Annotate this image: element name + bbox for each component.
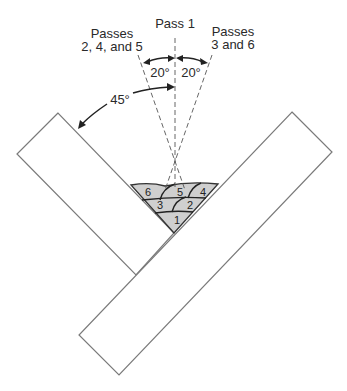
bead-number: 1	[174, 214, 180, 226]
arrowhead	[176, 55, 183, 62]
angle-arc-45-lower	[82, 104, 107, 124]
arrowhead	[143, 58, 150, 65]
angle-right-label: 20°	[181, 65, 201, 80]
angle-arc-left	[147, 58, 171, 62]
angle-plate-label: 45°	[110, 92, 130, 107]
pass1-label: Pass 1	[155, 16, 195, 31]
angle-left-label: 20°	[150, 65, 170, 80]
passes-right-label-line2: 3 and 6	[211, 37, 254, 52]
bead-number: 3	[157, 199, 163, 211]
arrowhead	[200, 58, 208, 65]
arrowhead	[167, 83, 175, 91]
bead-number: 2	[187, 199, 193, 211]
bead-number: 6	[145, 186, 151, 198]
weld-diagram: Pass 1 Passes 2, 4, and 5 Passes 3 and 6…	[0, 0, 347, 391]
bead-number: 5	[177, 186, 183, 198]
bead-number: 4	[200, 186, 206, 198]
passes-left-label-line2: 2, 4, and 5	[81, 39, 142, 54]
arrowhead	[168, 55, 175, 62]
angle-arc-45-upper	[133, 87, 170, 93]
